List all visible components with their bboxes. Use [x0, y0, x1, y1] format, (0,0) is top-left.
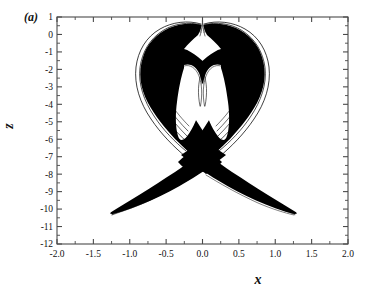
y-tick-label: -9 — [45, 187, 53, 197]
y-tick-label: -11 — [41, 222, 54, 232]
y-tick-label: -1 — [45, 47, 53, 57]
x-tick-label: -2.0 — [49, 249, 64, 259]
x-tick-label: 1.5 — [306, 249, 318, 259]
y-axis-title: z — [1, 123, 17, 128]
y-tick-label: -7 — [45, 152, 53, 162]
y-tick-label: 0 — [48, 30, 53, 40]
y-tick-label: -10 — [40, 204, 53, 214]
y-tick-label: -2 — [45, 65, 53, 75]
x-tick-label: -1.0 — [122, 249, 137, 259]
y-tick-label: -4 — [45, 100, 53, 110]
y-tick-label: 1 — [48, 12, 53, 22]
x-tick-label: -0.5 — [159, 249, 174, 259]
x-tick-label: -1.5 — [86, 249, 101, 259]
y-tick-label: -8 — [45, 170, 53, 180]
x-tick-label: 1.0 — [269, 249, 281, 259]
y-tick-label: -5 — [45, 117, 53, 127]
figure-panel-a: (a) — [0, 0, 371, 302]
attractor-trace — [111, 19, 297, 215]
x-tick-label: 0.5 — [233, 249, 245, 259]
x-axis-title-text: x — [255, 272, 262, 288]
x-tick-label: 2.0 — [342, 249, 354, 259]
y-tick-label: -3 — [45, 82, 53, 92]
x-tick-label: 0.0 — [197, 249, 209, 259]
y-tick-label: -6 — [45, 135, 53, 145]
phase-portrait-plot: 10-1-2-3-4-5-6-7-8-9-10-11-12 -2.0-1.5-1… — [0, 0, 371, 302]
x-axis-title: x — [0, 272, 371, 288]
